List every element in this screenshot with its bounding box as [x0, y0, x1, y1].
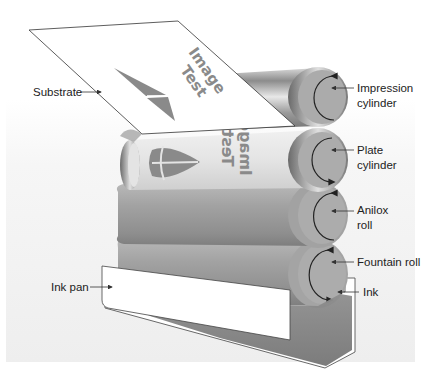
label-substrate: Substrate	[33, 86, 101, 98]
svg-text:Fountain roll: Fountain roll	[357, 256, 420, 268]
svg-text:Ink pan: Ink pan	[51, 281, 89, 293]
anilox-roll	[117, 182, 348, 248]
svg-text:Anilox: Anilox	[357, 204, 389, 216]
svg-text:cylinder: cylinder	[357, 97, 397, 109]
svg-text:Plate: Plate	[357, 144, 383, 156]
flexographic-printing-diagram: Image Test Image Test Substrate	[0, 0, 421, 377]
svg-text:Ink: Ink	[363, 286, 379, 298]
svg-text:roll: roll	[357, 219, 372, 231]
svg-text:cylinder: cylinder	[357, 159, 397, 171]
svg-text:Substrate: Substrate	[33, 86, 82, 98]
plate-test-text: Test	[218, 129, 237, 166]
svg-text:Impression: Impression	[357, 82, 413, 94]
